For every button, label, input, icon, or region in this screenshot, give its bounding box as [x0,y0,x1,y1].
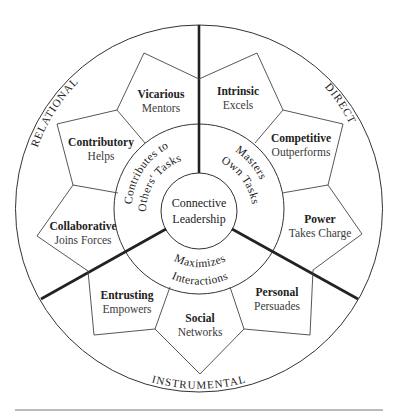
style-personal: Personal Persuades [254,286,301,312]
style-social: Social Networks [178,312,223,338]
style-desc: Persuades [254,300,301,312]
style-name: Competitive [271,132,331,145]
style-desc: Networks [178,326,223,338]
style-name: Collaborative [49,220,116,232]
center-label-line1: Connective [172,196,227,210]
label-instrumental: INSTRUMENTAL [151,373,248,391]
style-name: Personal [256,286,299,298]
style-vicarious: Vicarious Mentors [138,88,185,114]
label-direct: DIRECT [323,80,359,125]
ring-instrumental-line1: Maximizes [173,252,228,270]
style-collaborative: Collaborative Joins Forces [49,220,116,246]
style-name: Social [185,312,214,324]
connective-leadership-diagram: RELATIONAL DIRECT INSTRUMENTAL Contribut… [0,0,397,418]
style-desc: Joins Forces [54,234,112,246]
style-desc: Helps [88,150,115,163]
style-name: Vicarious [138,88,185,100]
style-desc: Outperforms [272,146,331,159]
style-desc: Excels [223,99,254,111]
center-label-line2: Leadership [172,212,225,226]
style-intrinsic: Intrinsic Excels [217,85,259,111]
center-circle [161,173,237,249]
style-desc: Mentors [142,102,181,114]
style-name: Power [304,213,335,225]
style-competitive: Competitive Outperforms [271,132,331,159]
ring-instrumental-line2: Interactions [170,269,229,287]
style-desc: Empowers [102,303,152,316]
style-name: Intrinsic [217,85,259,97]
style-name: Contributory [68,136,134,149]
style-contributory: Contributory Helps [68,136,134,163]
style-desc: Takes Charge [289,227,352,240]
style-name: Entrusting [100,289,153,302]
style-power: Power Takes Charge [289,213,352,240]
style-entrusting: Entrusting Empowers [100,289,153,316]
